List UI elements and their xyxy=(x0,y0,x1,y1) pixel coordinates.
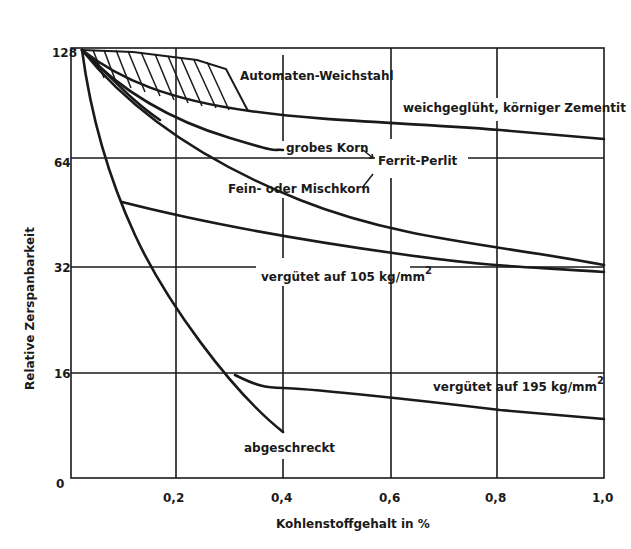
y-tick-0: 0 xyxy=(56,477,64,491)
label-abgeschreckt: abgeschreckt xyxy=(244,441,335,455)
x-tick-0.2: 0,2 xyxy=(163,491,184,505)
label-automaten-weichstahl: Automaten-Weichstahl xyxy=(240,69,394,83)
x-tick-1.0: 1,0 xyxy=(592,491,613,505)
y-tick-16: 16 xyxy=(54,367,71,381)
curve-abgeschreckt xyxy=(82,50,283,432)
curve-grobes-korn xyxy=(82,50,283,150)
y-tick-128: 128 xyxy=(52,46,77,60)
y-tick-32: 32 xyxy=(54,261,71,275)
y-tick-labels: 128 64 32 16 0 xyxy=(52,46,77,491)
x-tick-0.4: 0,4 xyxy=(271,491,292,505)
y-axis-title: Relative Zerspanbarkeit xyxy=(23,227,37,390)
y-tick-64: 64 xyxy=(54,156,71,170)
automaten-hatch xyxy=(82,50,248,111)
chart: 128 64 32 16 0 0,2 0,4 0,6 0,8 1,0 Kohle… xyxy=(0,0,631,549)
label-v195: vergütet auf 195 kg/mm2 xyxy=(433,375,604,394)
x-tick-0.6: 0,6 xyxy=(379,491,400,505)
label-fein-mischkorn: Fein- oder Mischkorn xyxy=(228,182,370,196)
label-grobes-korn: grobes Korn xyxy=(286,141,369,155)
label-ferrit-perlit: Ferrit-Perlit xyxy=(378,154,458,168)
label-v105: vergütet auf 105 kg/mm2 xyxy=(261,265,432,284)
x-tick-labels: 0,2 0,4 0,6 0,8 1,0 xyxy=(163,491,613,505)
x-tick-0.8: 0,8 xyxy=(485,491,506,505)
curve-v105 xyxy=(122,202,604,272)
x-axis-title: Kohlenstoffgehalt in % xyxy=(276,517,430,531)
label-weichgeglueht: weichgeglüht, körniger Zementit xyxy=(403,101,626,115)
